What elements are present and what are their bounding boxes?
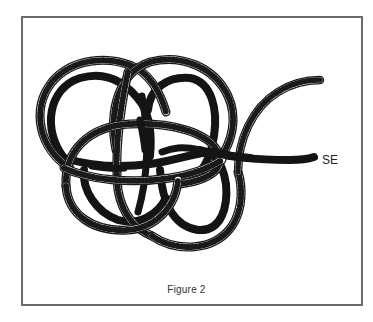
figure-caption: Figure 2 [0, 284, 373, 295]
rope-knot-diagram [0, 0, 373, 322]
rope-end-label: SE [322, 153, 338, 167]
